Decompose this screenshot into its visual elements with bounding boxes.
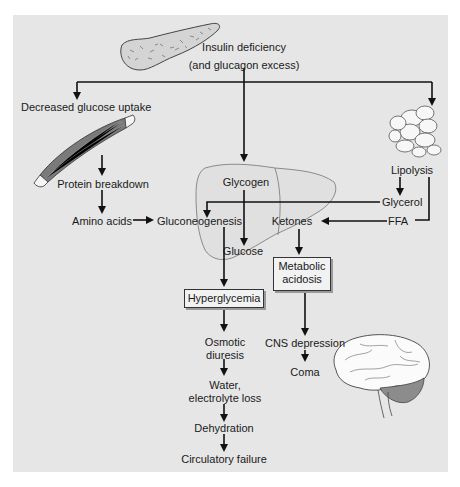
osmotic-diuresis-line2: diuresis [205, 349, 245, 362]
glucose-label: Glucose [223, 245, 263, 258]
glycogen-label: Glycogen [223, 176, 269, 189]
coma-label: Coma [290, 366, 319, 379]
adipose-cells-illustration [389, 106, 441, 157]
insulin-deficiency-line2: (and glucagon excess) [189, 59, 300, 72]
dehydration-label: Dehydration [194, 422, 253, 435]
cns-depression-label: CNS depression [265, 337, 345, 350]
lipolysis-label: Lipolysis [391, 164, 433, 177]
amino-acids-label: Amino acids [72, 215, 132, 228]
metabolic-acidosis-line2: acidosis [274, 273, 330, 286]
hyperglycemia-box: Hyperglycemia [184, 289, 264, 308]
circulatory-failure-label: Circulatory failure [181, 453, 267, 466]
decreased-glucose-uptake-label: Decreased glucose uptake [21, 101, 151, 114]
ffa-label: FFA [388, 215, 408, 228]
insulin-deficiency-label: Insulin deficiency (and glucagon excess) [189, 41, 300, 72]
protein-breakdown-label: Protein breakdown [57, 178, 149, 191]
ketones-label: Ketones [272, 215, 312, 228]
gluconeogenesis-label: Gluconeogenesis [157, 215, 242, 228]
water-electrolyte-loss-label: Water, electrolyte loss [189, 379, 262, 405]
osmotic-diuresis-label: Osmotic diuresis [205, 336, 245, 362]
muscle-illustration [34, 115, 135, 187]
water-electrolyte-loss-line2: electrolyte loss [189, 392, 262, 405]
brain-illustration [334, 335, 429, 418]
water-electrolyte-loss-line1: Water, [189, 379, 262, 392]
metabolic-acidosis-line1: Metabolic [274, 260, 330, 273]
insulin-deficiency-line1: Insulin deficiency [189, 41, 300, 54]
glycerol-label: Glycerol [382, 196, 422, 209]
metabolic-acidosis-box: Metabolic acidosis [273, 257, 331, 291]
diagram-canvas [0, 0, 460, 487]
osmotic-diuresis-line1: Osmotic [205, 336, 245, 349]
